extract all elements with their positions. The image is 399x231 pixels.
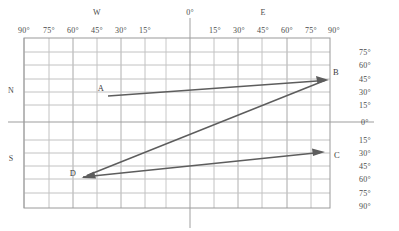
y-tick-label: 0° bbox=[361, 118, 369, 127]
direction-marker-zero: 0° bbox=[186, 8, 194, 17]
y-tick-label: 60° bbox=[359, 175, 371, 184]
direction-marker-west: W bbox=[93, 8, 101, 17]
point-label-b: B bbox=[333, 68, 339, 77]
x-tick-label: 75° bbox=[305, 26, 317, 35]
y-tick-label: 30° bbox=[359, 88, 371, 97]
x-tick-label: 30° bbox=[233, 26, 245, 35]
x-tick-label: 15° bbox=[209, 26, 221, 35]
point-label-a: A bbox=[98, 84, 104, 93]
plot-frame bbox=[24, 38, 330, 208]
point-label-c: C bbox=[334, 151, 340, 160]
y-tick-label: 90° bbox=[359, 202, 371, 211]
y-tick-label: 30° bbox=[359, 149, 371, 158]
x-tick-label: 45° bbox=[257, 26, 269, 35]
point-label-d: D bbox=[70, 169, 76, 178]
y-tick-label: 75° bbox=[359, 48, 371, 57]
direction-marker-south: S bbox=[9, 154, 14, 163]
direction-marker-north: N bbox=[8, 86, 14, 95]
y-tick-label: 15° bbox=[359, 101, 371, 110]
x-tick-label: 60° bbox=[67, 26, 79, 35]
grid-lines bbox=[24, 38, 330, 208]
y-tick-label: 15° bbox=[359, 136, 371, 145]
direction-marker-east: E bbox=[260, 8, 265, 17]
y-tick-label: 45° bbox=[359, 162, 371, 171]
y-tick-label: 75° bbox=[359, 189, 371, 198]
x-tick-label: 15° bbox=[139, 26, 151, 35]
x-tick-label: 60° bbox=[281, 26, 293, 35]
x-tick-label: 30° bbox=[115, 26, 127, 35]
x-tick-label: 90° bbox=[18, 26, 30, 35]
y-tick-label: 45° bbox=[359, 75, 371, 84]
x-tick-label: 90° bbox=[328, 26, 340, 35]
x-tick-label: 45° bbox=[91, 26, 103, 35]
x-tick-label: 75° bbox=[43, 26, 55, 35]
chart-canvas: W 0° E N S 90° 75° 60° 45° 30° 15° 15° 3… bbox=[0, 0, 399, 231]
y-tick-label: 60° bbox=[359, 61, 371, 70]
